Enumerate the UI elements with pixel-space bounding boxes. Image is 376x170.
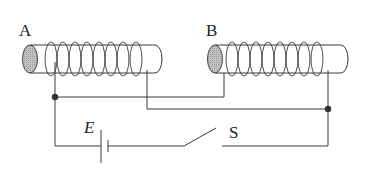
core-b-end-cap [208,45,223,73]
core-b-body [215,45,348,73]
junction-node-left [52,94,58,100]
label-battery-e: E [83,118,95,137]
solenoid-a [23,42,163,76]
solenoid-b [208,42,349,76]
junction-node-right [325,106,331,112]
label-switch-s: S [229,123,238,142]
wiring [55,62,328,146]
wire-a-right-to-junction [147,70,328,109]
switch-blade [184,128,216,146]
label-coil-b: B [206,21,217,40]
label-coil-a: A [19,21,32,40]
wire-a-to-b-left [55,73,224,97]
core-a-end-cap [23,45,38,73]
circuit-diagram: A B E S [0,0,376,170]
battery-cell [101,130,108,163]
